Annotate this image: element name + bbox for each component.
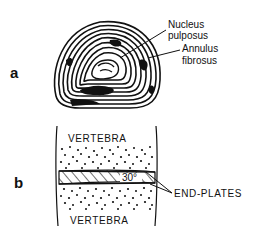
- bottom-vertebra-label: VERTEBRA: [70, 215, 129, 226]
- intervertebral-disc-diagram: a: [0, 0, 256, 242]
- top-vertebra-label: VERTEBRA: [68, 133, 127, 144]
- nucleus-label-line1: Nucleus: [168, 19, 204, 30]
- annulus-label-line1: Annulus: [182, 43, 218, 54]
- panel-a-letter: a: [10, 64, 19, 81]
- lower-end-plate: [59, 183, 155, 184]
- vertebra-left-border: [56, 126, 58, 226]
- upper-vertebra-stipple: [60, 146, 153, 169]
- panel-b-letter: b: [14, 174, 23, 191]
- nucleus-label-line2: pulposus: [168, 30, 208, 41]
- intervertebral-disc: 30°: [59, 170, 155, 184]
- lower-vertebra-stipple: [60, 187, 153, 210]
- panel-b: b VERTEBRA 30° VERTEBRA: [14, 126, 242, 226]
- disc-cross-section: [55, 22, 161, 108]
- nucleus-pulposus: [92, 60, 119, 79]
- endplate-leader-lower: [150, 184, 172, 193]
- panel-a: a: [10, 19, 218, 108]
- endplates-label: END-PLATES: [174, 188, 242, 199]
- angle-label: 30°: [122, 172, 137, 183]
- annulus-label-line2: fibrosus: [182, 55, 217, 66]
- upper-end-plate: [59, 171, 155, 172]
